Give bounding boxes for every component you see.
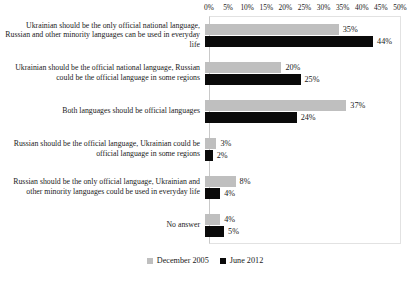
legend-label: December 2005 [157,256,209,266]
x-axis-tick-label: 45% [374,2,388,13]
x-axis-tick-label: 20% [279,2,293,13]
x-axis-ticks: 0%5%10%15%20%25%30%35%40%45%50% [0,2,410,14]
chart-category-row: Ukrainian should be the official nationa… [0,54,410,92]
x-axis-tick-label: 25% [298,2,312,13]
bar-group-item: 5% [205,226,239,237]
bar-group-item: 3% [205,138,231,149]
bar-group-item: 25% [205,74,320,85]
bar-value-label: 5% [224,226,239,237]
bar-value-label: 4% [220,214,235,225]
bar-june-2012 [205,112,297,123]
bar-group-item: 20% [205,62,300,73]
category-label: Ukrainian should be the only official na… [0,21,205,50]
x-axis-tick-label: 30% [317,2,331,13]
bar-december-2005 [205,100,346,111]
category-bars: 3%2% [205,130,410,168]
bar-december-2005 [205,214,220,225]
bar-group-item: 35% [205,24,358,35]
category-label: Both languages should be official langua… [0,106,205,116]
bar-group-item: 4% [205,188,235,199]
x-axis-tick-label: 0% [204,2,214,13]
legend-item[interactable]: December 2005 [147,256,209,266]
category-label: Ukrainian should be the official nationa… [0,63,205,82]
legend-label: June 2012 [230,256,263,266]
bar-value-label: 24% [297,112,316,123]
bar-value-label: 20% [281,62,300,73]
category-bars: 20%25% [205,54,410,92]
bar-june-2012 [205,150,213,161]
bar-group-item: 2% [205,150,228,161]
bar-value-label: 2% [213,150,228,161]
bar-value-label: 37% [346,100,365,111]
bar-value-label: 3% [216,138,231,149]
category-bars: 37%24% [205,92,410,130]
category-bars: 8%4% [205,168,410,206]
x-axis-tick-label: 50% [393,2,407,13]
bar-group-item: 8% [205,176,250,187]
category-rows: Ukrainian should be the only official na… [0,16,410,244]
x-axis-tick-label: 35% [336,2,350,13]
bar-group-item: 4% [205,214,235,225]
bar-june-2012 [205,74,301,85]
legend-item[interactable]: June 2012 [220,256,263,266]
bar-december-2005 [205,62,281,73]
bar-value-label: 8% [236,176,251,187]
bar-value-label: 44% [373,36,392,47]
category-bars: 4%5% [205,206,410,244]
legend-swatch-icon [220,258,226,264]
x-axis-tick-label: 15% [260,2,274,13]
category-bars: 35%44% [205,16,410,54]
bar-value-label: 35% [339,24,358,35]
chart-category-row: No answer4%5% [0,206,410,244]
bar-december-2005 [205,24,339,35]
bar-june-2012 [205,36,373,47]
chart-category-row: Russian should be the only official lang… [0,168,410,206]
grouped-bar-chart: 0%5%10%15%20%25%30%35%40%45%50% Ukrainia… [0,0,410,281]
bar-december-2005 [205,138,216,149]
bar-value-label: 4% [220,188,235,199]
x-axis-tick-label: 5% [223,2,233,13]
bar-group-item: 37% [205,100,365,111]
bar-december-2005 [205,176,236,187]
chart-legend: December 2005June 2012 [0,256,410,266]
category-label: No answer [0,220,205,230]
x-axis-tick-label: 40% [355,2,369,13]
chart-category-row: Both languages should be official langua… [0,92,410,130]
bar-value-label: 25% [301,74,320,85]
bar-group-item: 44% [205,36,392,47]
category-label: Russian should be the only official lang… [0,177,205,196]
chart-category-row: Ukrainian should be the only official na… [0,16,410,54]
legend-swatch-icon [147,258,153,264]
chart-category-row: Russian should be the official language,… [0,130,410,168]
bar-june-2012 [205,226,224,237]
bar-june-2012 [205,188,220,199]
category-label: Russian should be the official language,… [0,139,205,158]
bar-group-item: 24% [205,112,316,123]
x-axis-tick-label: 10% [240,2,254,13]
